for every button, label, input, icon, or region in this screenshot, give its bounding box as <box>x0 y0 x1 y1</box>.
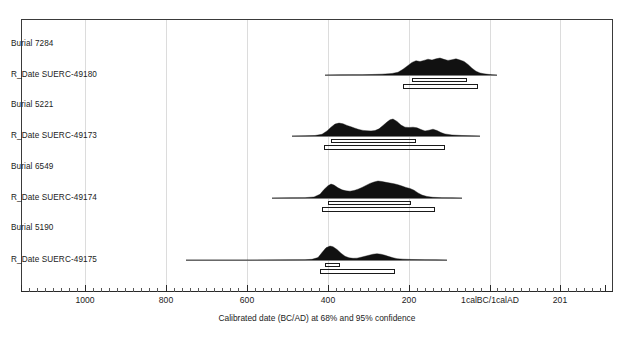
x-axis-minor-tick <box>425 288 426 292</box>
x-axis-minor-tick <box>311 288 312 292</box>
x-axis-minor-tick <box>449 288 450 292</box>
x-axis-minor-tick <box>457 288 458 292</box>
confidence-bar-68 <box>325 263 340 267</box>
x-axis-minor-tick <box>344 288 345 292</box>
x-axis-major-tick-200 <box>409 285 410 292</box>
x-axis-minor-tick <box>473 288 474 292</box>
x-axis-minor-tick <box>368 288 369 292</box>
x-axis-minor-tick <box>238 288 239 292</box>
x-axis-minor-tick <box>360 288 361 292</box>
group-label-burial-5221: Burial 5221 <box>11 100 54 110</box>
x-axis-minor-tick <box>295 288 296 292</box>
x-axis-minor-tick <box>125 288 126 292</box>
confidence-bar-68 <box>412 78 467 82</box>
x-axis-minor-tick <box>600 288 601 292</box>
x-axis-major-tick-800 <box>166 285 167 292</box>
x-axis-minor-tick <box>481 288 482 292</box>
group-label-burial-5190: Burial 5190 <box>11 223 54 233</box>
x-axis-minor-tick <box>553 288 554 292</box>
x-axis-minor-tick <box>352 288 353 292</box>
date-label-r-date-suerc-49173: R_Date SUERC-49173 <box>11 131 97 141</box>
probability-distribution <box>325 58 497 76</box>
confidence-bar-68 <box>331 139 416 143</box>
date-label-r-date-suerc-49174: R_Date SUERC-49174 <box>11 193 97 203</box>
x-axis-minor-tick <box>545 288 546 292</box>
x-axis-minor-tick <box>109 288 110 292</box>
x-axis-minor-tick <box>433 288 434 292</box>
x-axis-tick-label-1calBC/1calAD: 1calBC/1calAD <box>461 295 519 306</box>
x-axis-right-endcap <box>605 285 606 292</box>
x-axis-minor-tick <box>117 288 118 292</box>
x-axis-minor-tick <box>384 288 385 292</box>
x-axis-minor-tick <box>45 288 46 292</box>
x-axis-minor-tick <box>576 288 577 292</box>
group-label-burial-7284: Burial 7284 <box>11 39 54 49</box>
x-axis-minor-tick <box>303 288 304 292</box>
confidence-bar-95 <box>403 84 478 89</box>
x-axis-minor-tick <box>271 288 272 292</box>
group-label-burial-6549: Burial 6549 <box>11 162 54 172</box>
confidence-bar-95 <box>324 145 445 150</box>
x-axis-left-endcap <box>21 285 22 292</box>
x-axis-minor-tick <box>101 288 102 292</box>
x-axis-minor-tick <box>206 288 207 292</box>
x-axis-minor-tick <box>497 288 498 292</box>
x-axis-minor-tick <box>513 288 514 292</box>
x-axis-minor-tick <box>29 288 30 292</box>
date-label-r-date-suerc-49180: R_Date SUERC-49180 <box>11 70 97 80</box>
x-axis-minor-tick <box>157 288 158 292</box>
x-axis-minor-tick <box>61 288 62 292</box>
x-axis-major-tick-400 <box>328 285 329 292</box>
x-axis-minor-tick <box>214 288 215 292</box>
x-axis-major-tick-600 <box>247 285 248 292</box>
x-axis-tick-label-1000: 1000 <box>75 295 94 306</box>
x-axis-minor-tick <box>230 288 231 292</box>
x-axis-minor-tick <box>77 288 78 292</box>
oxcal-calibration-plot: Burial 7284R_Date SUERC-49180Burial 5221… <box>0 0 634 340</box>
confidence-bar-95 <box>322 207 435 212</box>
x-axis-minor-tick <box>182 288 183 292</box>
x-axis-minor-tick <box>133 288 134 292</box>
x-axis-minor-tick <box>198 288 199 292</box>
x-axis-minor-tick <box>592 288 593 292</box>
probability-distribution <box>292 119 480 137</box>
x-axis-major-tick-1000 <box>85 285 86 292</box>
x-axis-minor-tick <box>529 288 530 292</box>
x-axis-minor-tick <box>417 288 418 292</box>
x-axis-tick-label-600: 600 <box>240 295 254 306</box>
x-axis-minor-tick <box>69 288 70 292</box>
x-axis-minor-tick <box>255 288 256 292</box>
x-axis-minor-tick <box>174 288 175 292</box>
x-axis-minor-tick <box>319 288 320 292</box>
x-axis-major-tick-1calBC/1calAD <box>490 285 491 292</box>
date-label-r-date-suerc-49175: R_Date SUERC-49175 <box>11 255 97 265</box>
x-axis-minor-tick <box>400 288 401 292</box>
x-axis-minor-tick <box>141 288 142 292</box>
gridline-201 <box>560 20 561 291</box>
x-axis-minor-tick <box>93 288 94 292</box>
x-axis-minor-tick <box>336 288 337 292</box>
x-axis-minor-tick <box>505 288 506 292</box>
x-axis-minor-tick <box>222 288 223 292</box>
x-axis-minor-tick <box>465 288 466 292</box>
x-axis-minor-tick <box>190 288 191 292</box>
x-axis-minor-tick <box>376 288 377 292</box>
gridline-1000 <box>85 20 86 291</box>
x-axis-minor-tick <box>287 288 288 292</box>
x-axis-tick-label-200: 200 <box>402 295 416 306</box>
x-axis-minor-tick <box>392 288 393 292</box>
x-axis-tick-label-201: 201 <box>553 295 567 306</box>
x-axis-tick-label-800: 800 <box>159 295 173 306</box>
probability-distribution <box>186 243 447 261</box>
x-axis-minor-tick <box>37 288 38 292</box>
x-axis-tick-label-400: 400 <box>321 295 335 306</box>
x-axis-minor-tick <box>521 288 522 292</box>
x-axis-minor-tick <box>537 288 538 292</box>
x-axis-minor-tick <box>568 288 569 292</box>
confidence-bar-68 <box>328 201 411 205</box>
confidence-bar-95 <box>320 269 395 274</box>
gridline-800 <box>166 20 167 291</box>
x-axis-minor-tick <box>441 288 442 292</box>
x-axis-minor-tick <box>263 288 264 292</box>
probability-distribution <box>272 181 462 199</box>
